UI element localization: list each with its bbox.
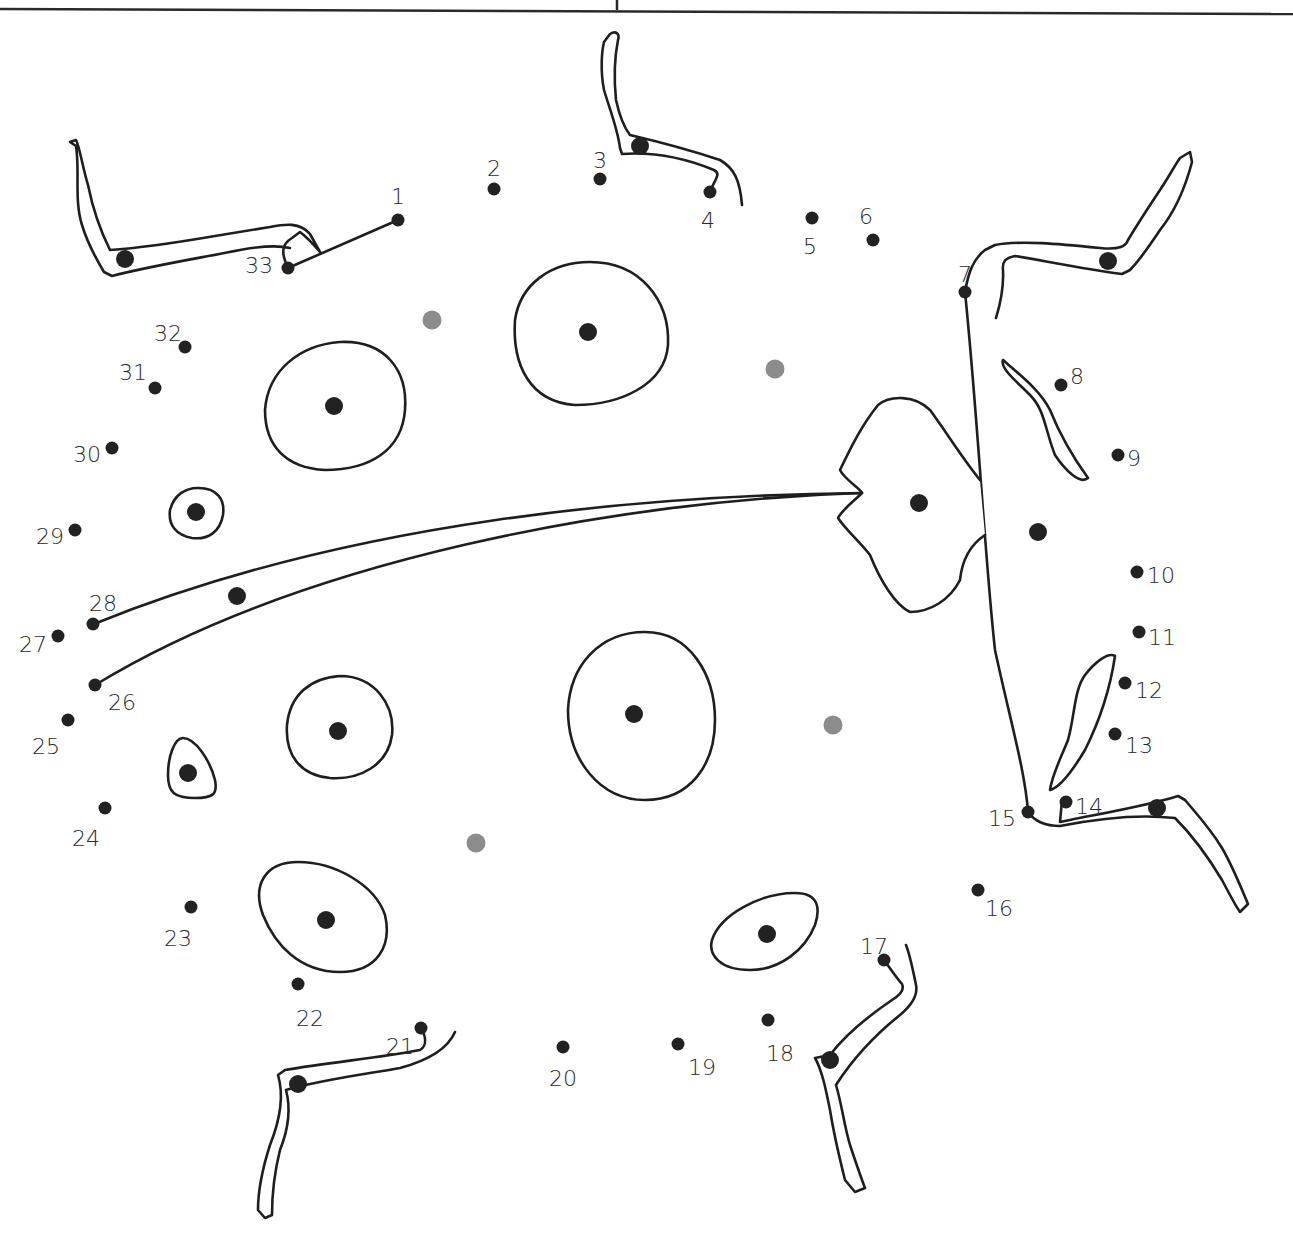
spot-center-dot	[317, 911, 335, 929]
numbered-dot: 11	[1133, 625, 1177, 650]
dot-marker	[1133, 626, 1146, 639]
dot-marker	[972, 884, 985, 897]
dot-marker	[99, 802, 112, 815]
dot-number-label: 4	[701, 208, 715, 233]
dot-marker	[557, 1041, 570, 1054]
spot-center-dot	[187, 503, 205, 521]
dot-marker	[415, 1022, 428, 1035]
spot-center-dot	[1099, 252, 1117, 270]
numbered-dot: 21	[386, 1022, 428, 1060]
dot-number-label: 28	[89, 591, 117, 616]
numbered-dot: 32	[154, 321, 192, 354]
numbered-dot: 12	[1119, 677, 1164, 704]
dot-number-label: 31	[119, 360, 147, 385]
dot-number-label: 3	[593, 148, 607, 173]
dot-to-dot-worksheet: 1234567891011121314151617181920212223242…	[0, 0, 1293, 1234]
dot-number-label: 5	[803, 234, 817, 259]
numbered-dot: 15	[988, 806, 1035, 832]
numbered-dot: 16	[972, 884, 1014, 922]
leg-right-lower	[1028, 796, 1248, 912]
dot-marker	[1060, 796, 1073, 809]
dot-number-label: 7	[958, 262, 972, 287]
numbered-dot: 30	[73, 442, 119, 468]
spot-center-dot	[179, 764, 197, 782]
dot-number-label: 18	[766, 1041, 794, 1066]
dot-number-label: 23	[164, 926, 192, 951]
numbered-dot: 22	[292, 978, 325, 1032]
spot-center-dot	[758, 925, 776, 943]
dot-marker	[1112, 449, 1125, 462]
dot-number-label: 26	[108, 690, 136, 715]
spot-center-dot	[821, 1051, 839, 1069]
spot-center-dot	[631, 137, 649, 155]
dot-number-label: 10	[1147, 563, 1175, 588]
spot-center-dot	[625, 705, 643, 723]
dot-number-label: 8	[1070, 364, 1084, 389]
header-rule	[0, 9, 1293, 14]
dot-marker	[488, 183, 501, 196]
numbered-dot: 24	[72, 802, 112, 852]
dot-number-label: 32	[154, 321, 182, 346]
dot-number-label: 16	[985, 896, 1013, 921]
dot-marker	[867, 234, 880, 247]
dot-number-label: 6	[859, 204, 873, 229]
numbered-dot: 4	[701, 186, 717, 234]
leg-top-right	[965, 152, 1192, 318]
dot-marker	[806, 212, 819, 225]
numbered-dot: 6	[859, 204, 880, 247]
numbered-dot: 9	[1112, 446, 1142, 471]
dot-number-label: 1	[391, 184, 405, 209]
numbered-dot: 33	[245, 253, 295, 278]
numbered-dot: 3	[593, 148, 607, 186]
dot-marker	[292, 978, 305, 991]
dot-number-label: 21	[386, 1034, 414, 1059]
spot-center-dot	[1029, 523, 1047, 541]
eye-lower	[1050, 655, 1115, 790]
dot-number-label: 15	[988, 806, 1016, 831]
dot-number-label: 27	[19, 632, 47, 657]
spot-center-dot	[1148, 799, 1166, 817]
spot-center-dot	[228, 587, 246, 605]
numbered-dot: 27	[19, 630, 65, 658]
leg-bottom-left	[258, 1028, 455, 1218]
numbered-dot: 13	[1109, 728, 1154, 759]
numbered-dot: 25	[32, 714, 75, 760]
dot-marker	[69, 524, 82, 537]
leg-top-middle	[602, 32, 742, 205]
dot-number-label: 2	[487, 156, 501, 181]
dot-marker	[704, 186, 717, 199]
dot-number-label: 33	[245, 253, 273, 278]
dot-number-label: 22	[296, 1006, 324, 1031]
numbered-dot: 28	[87, 591, 118, 631]
grey-spot-dot	[824, 716, 843, 735]
body-divider-line	[965, 292, 1028, 812]
numbered-dot: 29	[36, 524, 82, 550]
dot-marker	[1119, 677, 1132, 690]
dot-marker	[762, 1014, 775, 1027]
shell-spots	[168, 262, 818, 972]
dot-number-label: 13	[1125, 733, 1153, 758]
dot-marker	[1131, 566, 1144, 579]
dot-marker	[87, 618, 100, 631]
numbered-dot: 19	[672, 1038, 717, 1081]
dot-marker	[594, 173, 607, 186]
antenna-line-upper	[94, 493, 862, 624]
dot-marker	[1055, 379, 1068, 392]
numbered-dot: 14	[1060, 794, 1104, 819]
dot-number-label: 9	[1127, 446, 1141, 471]
dot-marker	[1109, 728, 1122, 741]
numbered-dot: 17	[860, 934, 891, 967]
dot-marker	[62, 714, 75, 727]
dot-number-label: 29	[36, 524, 64, 549]
numbered-dot: 20	[549, 1041, 577, 1092]
dot-marker	[52, 630, 65, 643]
spot-center-dot	[579, 323, 597, 341]
grey-spot-dot	[423, 311, 442, 330]
dot-number-label: 19	[688, 1055, 716, 1080]
dot-number-label: 24	[72, 826, 100, 851]
dot-marker	[392, 214, 405, 227]
spot-center-dot	[289, 1075, 307, 1093]
numbered-dot: 10	[1131, 563, 1176, 588]
dot-number-label: 30	[73, 442, 101, 467]
numbered-dot: 31	[119, 360, 162, 395]
